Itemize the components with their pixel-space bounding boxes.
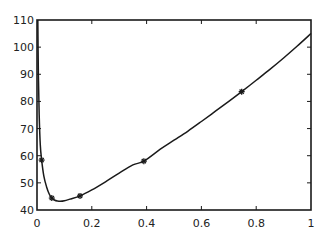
plot-frame <box>37 20 311 210</box>
y-tick-label: 90 <box>20 68 34 81</box>
x-tick-label: 0.8 <box>247 217 265 230</box>
y-tick-label: 60 <box>20 150 34 163</box>
asterisk-marker <box>77 193 83 199</box>
x-tick-label: 0.2 <box>83 217 101 230</box>
line-chart: 00.20.40.60.81 405060708090100110 <box>0 0 328 238</box>
x-tick-label: 0 <box>34 217 41 230</box>
x-tick-label: 0.4 <box>138 217 156 230</box>
data-markers <box>39 89 245 201</box>
y-tick-label: 100 <box>13 41 34 54</box>
y-axis: 405060708090100110 <box>13 14 311 217</box>
curve-line <box>38 20 311 201</box>
y-tick-label: 50 <box>20 177 34 190</box>
y-tick-label: 70 <box>20 123 34 136</box>
y-tick-label: 80 <box>20 95 34 108</box>
x-axis: 00.20.40.60.81 <box>34 20 315 230</box>
asterisk-marker <box>49 195 55 201</box>
data-curve <box>38 20 311 201</box>
x-tick-label: 0.6 <box>193 217 211 230</box>
asterisk-marker <box>39 157 45 163</box>
y-tick-label: 40 <box>20 204 34 217</box>
x-tick-label: 1 <box>308 217 315 230</box>
y-tick-label: 110 <box>13 14 34 27</box>
